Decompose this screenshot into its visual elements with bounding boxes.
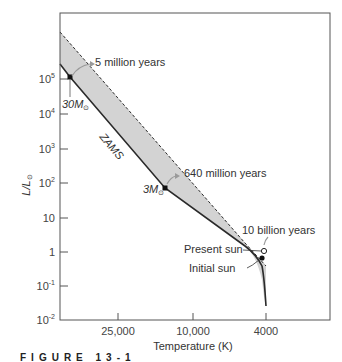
svg-text:L/L⊙: L/L⊙ (20, 174, 33, 195)
figure-caption: FIGURE 13-1 (20, 352, 136, 362)
label-640-million-years: 640 million years (184, 167, 267, 179)
x-axis-title: Temperature (K) (153, 340, 232, 352)
marker-30msun (68, 75, 73, 80)
label-initial-sun: Initial sun (189, 262, 235, 274)
x-tick-labels: 25,000 10,000 4000 (101, 325, 278, 337)
y-axis-ticks (60, 79, 68, 286)
y-axis-title: L/L⊙ (20, 174, 33, 195)
marker-initial-sun (259, 255, 264, 260)
label-10-billion-years: 10 billion years (242, 224, 316, 236)
label-5-million-years: 5 million years (95, 56, 166, 68)
label-present-sun: Present sun (184, 243, 243, 255)
svg-text:10-2: 10-2 (37, 313, 56, 326)
label-3msun: 3M⊙ (143, 183, 164, 196)
svg-text:25,000: 25,000 (101, 325, 135, 337)
y-tick-labels: 105 104 103 102 10 1 10-1 10-2 (37, 72, 56, 326)
svg-text:103: 103 (39, 142, 55, 155)
svg-text:1: 1 (49, 246, 55, 258)
label-30msun: 30M⊙ (62, 98, 89, 111)
marker-present-sun (261, 248, 266, 253)
hr-diagram: 105 104 103 102 10 1 10-1 10-2 25,000 10… (0, 0, 342, 362)
svg-text:10-1: 10-1 (37, 279, 56, 292)
present-sun-leader (243, 250, 261, 251)
arrow-10-billion (264, 237, 268, 245)
svg-text:105: 105 (39, 72, 55, 85)
x-axis-ticks (118, 313, 266, 320)
svg-text:10,000: 10,000 (176, 325, 210, 337)
svg-text:102: 102 (39, 176, 55, 189)
svg-text:10: 10 (43, 212, 55, 224)
svg-text:104: 104 (39, 107, 55, 120)
svg-text:4000: 4000 (254, 325, 278, 337)
